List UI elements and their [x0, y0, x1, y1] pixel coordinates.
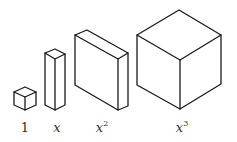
- label-x: x: [53, 120, 61, 135]
- label-1: 1: [21, 120, 29, 135]
- unit-cube-shape: [14, 87, 36, 110]
- powers-of-x-diagram: 1 x x2 x3: [0, 0, 237, 142]
- rod-shape: [45, 49, 65, 110]
- cube-shape: [137, 10, 221, 109]
- label-x-cubed: x3: [176, 119, 188, 135]
- flat-shape: [75, 30, 128, 110]
- label-x-squared: x2: [96, 119, 108, 135]
